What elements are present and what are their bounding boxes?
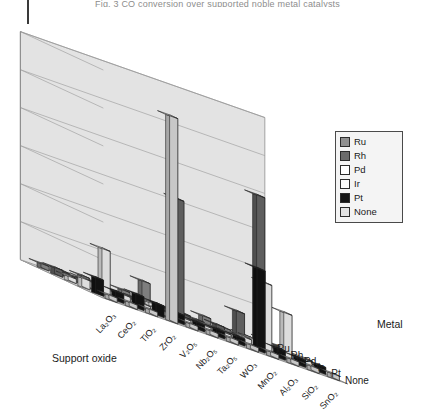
legend-item-pt[interactable]: Pt	[340, 191, 399, 205]
legend-item-ir[interactable]: Ir	[340, 177, 399, 191]
legend-item-label: Pd	[354, 165, 366, 175]
z-tick-label-ru: Ru	[277, 343, 290, 354]
z-tick-label-pd: Pd	[304, 356, 316, 367]
legend-item-none[interactable]: None	[340, 205, 399, 219]
legend-swatch-icon	[340, 207, 350, 217]
z-tick-label-pt: Pt	[331, 368, 340, 379]
z-tick-label-ir: Ir	[318, 362, 324, 373]
legend-swatch-icon	[340, 193, 350, 203]
legend: RuRhPdIrPtNone	[335, 131, 403, 223]
legend-item-label: None	[354, 207, 377, 217]
legend-swatch-icon	[340, 165, 350, 175]
legend-item-label: Rh	[354, 151, 366, 161]
legend-item-ru[interactable]: Ru	[340, 135, 399, 149]
legend-item-label: Ru	[354, 137, 366, 147]
legend-item-label: Ir	[354, 179, 360, 189]
legend-swatch-icon	[340, 137, 350, 147]
z-tick-label-none: None	[345, 375, 369, 386]
legend-swatch-icon	[340, 151, 350, 161]
legend-swatch-icon	[340, 179, 350, 189]
legend-item-rh[interactable]: Rh	[340, 149, 399, 163]
legend-item-pd[interactable]: Pd	[340, 163, 399, 177]
z-tick-label-rh: Rh	[291, 350, 304, 361]
legend-item-label: Pt	[354, 193, 363, 203]
